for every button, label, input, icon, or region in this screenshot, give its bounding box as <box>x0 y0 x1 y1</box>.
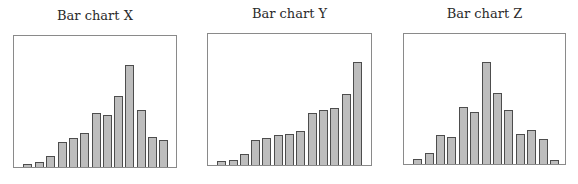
bar-13 <box>550 160 559 164</box>
bar-7 <box>482 62 491 164</box>
bar-chart-z: Bar chart Z <box>403 0 566 184</box>
bar-1 <box>217 161 226 165</box>
bar-9 <box>114 96 123 167</box>
bar-5 <box>69 138 78 167</box>
chart-title: Bar chart Z <box>403 6 566 21</box>
bar-12 <box>539 139 548 164</box>
chart-title: Bar chart X <box>13 8 177 23</box>
bar-11 <box>527 130 536 164</box>
bar-11 <box>137 110 146 167</box>
bar-7 <box>92 113 101 167</box>
bar-13 <box>159 140 168 167</box>
bar-12 <box>342 94 351 165</box>
bar-9 <box>308 113 317 165</box>
bar-4 <box>447 137 456 164</box>
bar-13 <box>353 62 362 165</box>
bar-7 <box>285 134 294 165</box>
bar-10 <box>319 110 328 165</box>
bar-2 <box>229 160 238 165</box>
bar-8 <box>296 131 305 165</box>
bar-8 <box>103 115 112 167</box>
chart-title: Bar chart Y <box>207 6 372 21</box>
bar-4 <box>58 142 67 167</box>
bar-6 <box>470 112 479 164</box>
bar-2 <box>35 162 44 167</box>
bar-10 <box>516 134 525 164</box>
bar-chart-x: Bar chart X <box>13 0 177 184</box>
bar-5 <box>459 107 468 164</box>
bar-3 <box>436 135 445 164</box>
bar-6 <box>80 133 89 167</box>
bar-10 <box>125 65 134 167</box>
bar-5 <box>262 138 271 165</box>
bar-12 <box>148 137 157 167</box>
bar-1 <box>413 159 422 164</box>
bar-chart-y: Bar chart Y <box>207 0 372 184</box>
bar-4 <box>251 140 260 165</box>
bar-3 <box>240 154 249 165</box>
bar-11 <box>330 108 339 165</box>
bar-9 <box>504 110 513 164</box>
bar-2 <box>425 153 434 164</box>
bar-6 <box>274 135 283 165</box>
bar-3 <box>46 156 55 167</box>
bar-8 <box>493 93 502 164</box>
bar-1 <box>23 164 32 167</box>
